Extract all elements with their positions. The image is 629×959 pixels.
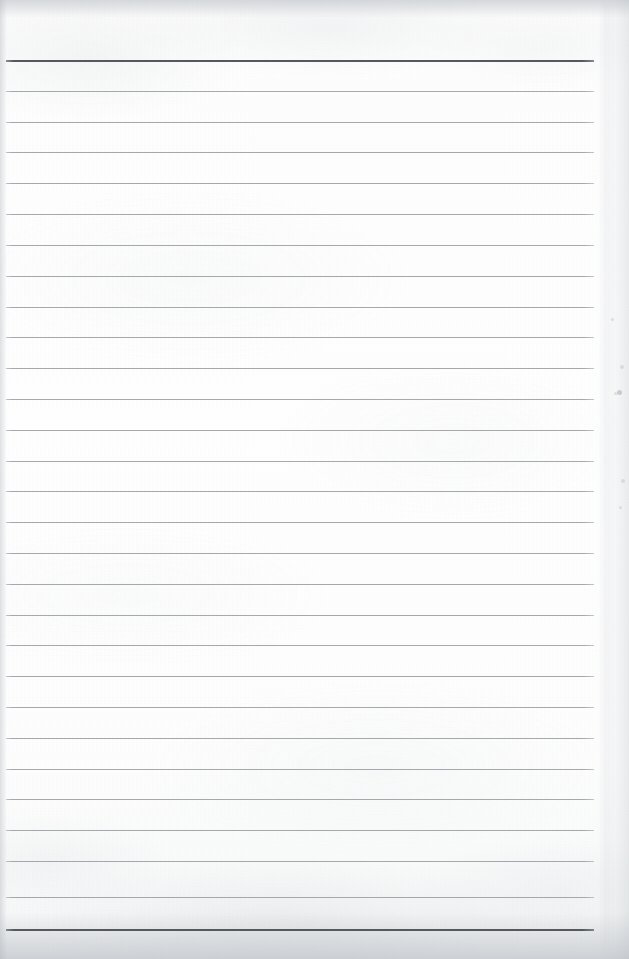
rule-line-21 bbox=[6, 707, 594, 708]
rule-line-16 bbox=[6, 553, 594, 554]
rule-line-24 bbox=[6, 799, 594, 800]
rule-line-4 bbox=[6, 183, 594, 184]
rule-line-28 bbox=[6, 929, 594, 931]
rule-line-7 bbox=[6, 276, 594, 277]
rule-line-15 bbox=[6, 522, 594, 523]
rule-line-27 bbox=[6, 897, 594, 898]
rule-line-8 bbox=[6, 307, 594, 308]
rule-line-18 bbox=[6, 615, 594, 616]
rule-line-20 bbox=[6, 676, 594, 677]
scan-speck-2 bbox=[614, 392, 617, 395]
rule-line-11 bbox=[6, 399, 594, 400]
rule-line-5 bbox=[6, 214, 594, 215]
scan-speck-0 bbox=[620, 365, 624, 369]
rule-line-19 bbox=[6, 645, 594, 646]
rule-line-13 bbox=[6, 461, 594, 462]
rule-line-22 bbox=[6, 738, 594, 739]
rule-line-10 bbox=[6, 368, 594, 369]
rule-line-14 bbox=[6, 491, 594, 492]
scan-speck-5 bbox=[611, 318, 614, 321]
rule-line-17 bbox=[6, 584, 594, 585]
rule-line-3 bbox=[6, 152, 594, 153]
scan-speck-4 bbox=[619, 506, 622, 509]
scan-speck-3 bbox=[621, 479, 625, 483]
ruling-lines-group bbox=[0, 0, 629, 959]
rule-line-26 bbox=[6, 861, 594, 862]
scanned-page bbox=[0, 0, 629, 959]
rule-line-9 bbox=[6, 337, 594, 338]
rule-line-0 bbox=[6, 60, 594, 62]
rule-line-12 bbox=[6, 430, 594, 431]
rule-line-25 bbox=[6, 830, 594, 831]
rule-line-2 bbox=[6, 122, 594, 123]
rule-line-6 bbox=[6, 245, 594, 246]
scan-speck-1 bbox=[617, 390, 622, 395]
rule-line-1 bbox=[6, 91, 594, 92]
rule-line-23 bbox=[6, 769, 594, 770]
